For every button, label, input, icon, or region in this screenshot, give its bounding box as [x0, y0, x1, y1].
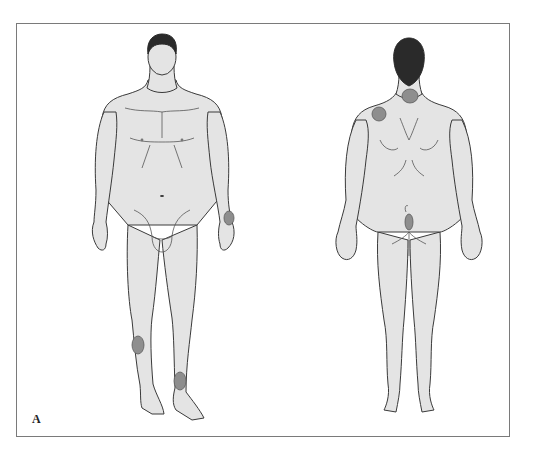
lesion-nape — [402, 89, 418, 103]
anterior-torso — [98, 80, 226, 225]
lesion-right-shin — [132, 336, 144, 354]
anterior-figure — [92, 34, 234, 420]
posterior-left-leg — [410, 232, 441, 412]
anatomy-figures — [0, 0, 555, 452]
lesion-gluteal-cleft — [405, 214, 413, 230]
lesion-left-wrist — [224, 211, 234, 225]
lesion-scapula — [372, 107, 386, 121]
anterior-left-leg — [162, 225, 204, 420]
anterior-right-leg — [127, 225, 164, 414]
panel-label: A — [32, 412, 41, 427]
posterior-head-hair — [394, 38, 425, 86]
lesion-left-distal-leg — [174, 372, 186, 390]
posterior-right-leg — [377, 232, 408, 412]
